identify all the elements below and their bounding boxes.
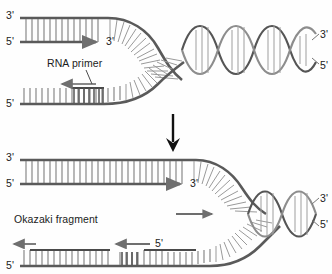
- top-helix-3prime-tick: [312, 34, 319, 40]
- top-double-helix: [182, 26, 316, 74]
- okazaki-fragment-caption: Okazaki fragment: [14, 214, 98, 224]
- bottom-panel-top-rungs: [26, 161, 182, 184]
- rna-primer-caption: RNA primer: [47, 58, 102, 68]
- top-leading-3prime-label: 3': [106, 36, 114, 46]
- diagram-canvas: 3' 5' 3' 5' RNA primer 3' 5' 3' 5' 3' 5'…: [0, 0, 332, 274]
- bottom-panel-bottom-rungs: [24, 249, 210, 265]
- top-fork-teeth-upper: [110, 19, 178, 79]
- bottom-lagging-5prime-label: 5': [6, 260, 14, 270]
- top-leading-5prime-label: 5': [6, 36, 14, 46]
- rna-primer-leader-line: [86, 70, 92, 84]
- bottom-leading-3prime-label: 3': [190, 178, 198, 188]
- bottom-leading-5prime-label: 5': [6, 178, 14, 188]
- top-template-rungs: [26, 19, 98, 42]
- bottom-rna-primer-block: [122, 252, 137, 265]
- bottom-template-3prime-label: 3': [6, 152, 14, 162]
- top-template-3prime-label: 3': [6, 10, 14, 20]
- top-lagging-5prime-label: 5': [6, 98, 14, 108]
- top-helix-5prime-label: 5': [320, 60, 328, 70]
- lagging-direction-5prime-label: 5': [155, 238, 163, 248]
- bottom-helix-3prime-tick: [312, 198, 319, 204]
- okazaki-fragment-one: [14, 244, 110, 250]
- top-helix-3prime-label: 3': [320, 29, 328, 39]
- bottom-helix-5prime-label: 5': [320, 219, 328, 229]
- rna-primer-block: [72, 88, 104, 103]
- bottom-helix-3prime-label: 3': [320, 193, 328, 203]
- diagram-svg: [0, 0, 332, 274]
- connector-arrow-group: [166, 114, 180, 152]
